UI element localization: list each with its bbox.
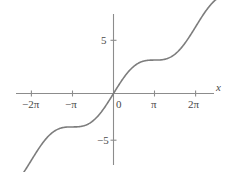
chart-figure: −2π −π 0 π 2π 5 −5 x [0,0,228,172]
plot-canvas [0,0,228,172]
x-tick-label-2pi: 2π [188,99,199,110]
x-tick-label-zero: 0 [116,99,122,110]
y-tick-label-5: 5 [101,35,107,46]
x-tick-label-negpi: −π [65,99,77,110]
x-tick-label-pi: π [151,99,157,110]
x-tick-label-neg2pi: −2π [22,99,39,110]
x-axis-label: x [216,82,221,93]
y-tick-label-neg5: −5 [97,135,109,146]
